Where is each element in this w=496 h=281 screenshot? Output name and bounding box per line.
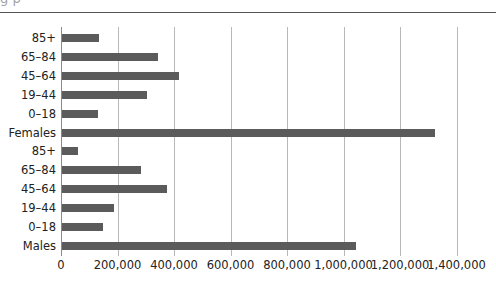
bar-chart-plot <box>61 27 481 256</box>
bar <box>62 91 147 99</box>
y-category-label: 19–44 <box>21 89 56 101</box>
x-tick-label: 400,000 <box>150 258 198 272</box>
x-tick-label: 1,400,000 <box>427 258 486 272</box>
bar <box>62 72 179 80</box>
y-category-label: 65–84 <box>21 51 56 63</box>
gridline <box>231 27 232 256</box>
y-category-label: 65–84 <box>21 164 56 176</box>
x-tick-label: 1,000,000 <box>314 258 373 272</box>
header-rule <box>0 12 496 13</box>
y-category-label: 45–64 <box>21 183 56 195</box>
x-tick-label: 200,000 <box>94 258 142 272</box>
x-tick-label: 800,000 <box>263 258 311 272</box>
bar <box>62 204 114 212</box>
gridline <box>287 27 288 256</box>
gridline <box>400 27 401 256</box>
y-category-label: 85+ <box>32 145 56 157</box>
y-axis-line <box>61 27 62 256</box>
x-tick-label: 0 <box>57 258 64 272</box>
bar <box>62 34 99 42</box>
bar <box>62 242 356 250</box>
bar <box>62 166 141 174</box>
bar <box>62 223 103 231</box>
bar <box>62 129 435 137</box>
bar <box>62 53 158 61</box>
y-category-label: 85+ <box>32 32 56 44</box>
y-category-label: Males <box>23 240 56 252</box>
x-tick-label: 600,000 <box>207 258 255 272</box>
x-tick-label: 1,200,000 <box>371 258 430 272</box>
y-category-label: Females <box>8 127 56 139</box>
y-category-label: 19–44 <box>21 202 56 214</box>
cropped-heading-text: g p <box>0 0 21 6</box>
y-category-label: 0–18 <box>28 108 56 120</box>
bar <box>62 110 98 118</box>
y-category-label: 0–18 <box>28 221 56 233</box>
gridline <box>344 27 345 256</box>
bar <box>62 185 167 193</box>
gridline <box>457 27 458 256</box>
gridline <box>174 27 175 256</box>
bar <box>62 147 78 155</box>
gridline <box>118 27 119 256</box>
y-category-label: 45–64 <box>21 70 56 82</box>
